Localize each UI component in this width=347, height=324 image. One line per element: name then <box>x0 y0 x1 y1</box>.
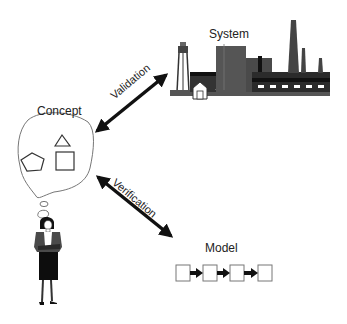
system-label: System <box>209 27 249 41</box>
square-shape <box>56 152 74 170</box>
model-label: Model <box>205 241 238 255</box>
process-chain-icon <box>176 265 272 281</box>
person-icon <box>34 217 62 305</box>
verification-arrow <box>98 177 171 236</box>
concept-label: Concept <box>37 104 82 118</box>
thought-bubble-icon <box>18 113 93 218</box>
factory-icon <box>170 20 330 99</box>
water-tower-icon <box>177 42 189 92</box>
pentagon-shape <box>21 153 44 171</box>
triangle-shape <box>55 135 70 146</box>
diagram-canvas <box>0 0 347 324</box>
